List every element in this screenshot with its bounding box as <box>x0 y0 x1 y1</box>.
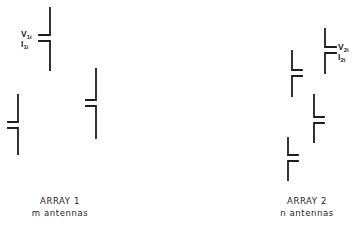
array-2-antenna-4 <box>288 138 298 180</box>
antenna-upper-arm <box>39 8 50 35</box>
antenna-lower-arm <box>325 53 336 73</box>
antenna-upper-arm <box>86 69 96 100</box>
voltage-label-v1i: V1i <box>21 29 32 40</box>
array-2-antenna-3 <box>314 95 324 142</box>
array-2-count: n antennas <box>280 208 334 218</box>
antenna-arrays-diagram: V1i I1i ARRAY 1 m antennas V2i I2i <box>0 0 358 228</box>
antenna-lower-arm <box>8 128 18 154</box>
antenna-upper-arm <box>8 95 18 122</box>
antenna-upper-arm <box>292 51 302 70</box>
antenna-lower-arm <box>86 106 96 138</box>
array-1-antenna-1 <box>39 8 50 70</box>
antenna-lower-arm <box>314 123 324 142</box>
array-2-title: ARRAY 2 <box>287 196 327 206</box>
antenna-upper-arm <box>314 95 324 117</box>
current-label-i2i: I2i <box>338 52 346 63</box>
voltage-label-v2i: V2i <box>338 42 349 53</box>
antenna-upper-arm <box>325 29 336 47</box>
antenna-lower-arm <box>288 161 298 180</box>
antenna-lower-arm <box>39 41 50 70</box>
array-2-antenna-2 <box>292 51 302 96</box>
array-1-antenna-3 <box>86 69 96 138</box>
antenna-lower-arm <box>292 76 302 96</box>
array-1-title: ARRAY 1 <box>40 196 80 206</box>
array-1-antenna-2 <box>8 95 18 154</box>
antenna-upper-arm <box>288 138 298 155</box>
array-1-count: m antennas <box>32 208 89 218</box>
array-1: V1i I1i ARRAY 1 m antennas <box>8 8 96 218</box>
current-label-i1i: I1i <box>21 39 29 50</box>
array-2: V2i I2i ARRAY 2 n antennas <box>280 29 349 218</box>
array-2-antenna-1 <box>325 29 336 73</box>
